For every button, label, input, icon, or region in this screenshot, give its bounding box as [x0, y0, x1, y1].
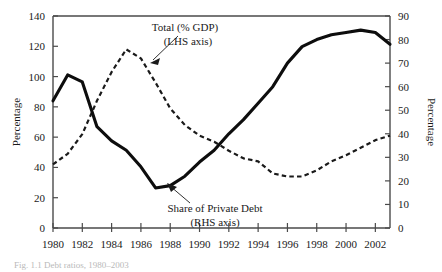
left-tick-label: 60: [34, 131, 46, 143]
annotation-total-gdp-line2: (LHS axis): [164, 35, 213, 48]
figure-container: 020406080100120140 0102030405060708090 1…: [0, 0, 442, 272]
x-tick-label: 1994: [247, 238, 270, 250]
axes-frame: [53, 16, 390, 228]
x-tick-label: 1992: [218, 238, 240, 250]
right-tick-label: 70: [398, 57, 410, 69]
left-tick-label: 140: [29, 10, 46, 22]
left-tick-label: 20: [34, 192, 46, 204]
series-line-2: [53, 30, 390, 188]
left-tick-label: 40: [34, 161, 46, 173]
x-tick-label: 1986: [130, 238, 153, 250]
left-tick-label: 80: [34, 101, 46, 113]
annotation-private-debt-line2: (RHS axis): [190, 216, 240, 229]
annotation-private-debt-line1: Share of Private Debt: [168, 202, 263, 214]
x-tick-label: 1998: [306, 238, 329, 250]
left-axis-title: Percentage: [10, 98, 22, 146]
right-tick-label: 10: [398, 198, 410, 210]
annotation-total-gdp: Total (% GDP) (LHS axis): [150, 21, 219, 65]
x-tick-label: 1988: [159, 238, 182, 250]
right-axis-title: Percentage: [426, 98, 438, 146]
right-tick-label: 60: [398, 81, 410, 93]
left-tick-label: 0: [40, 222, 46, 234]
x-tick-label: 1984: [101, 238, 124, 250]
series-layer: [53, 30, 390, 188]
x-tick-label: 1990: [189, 238, 212, 250]
x-tick-label: 1980: [42, 238, 65, 250]
right-tick-label: 0: [398, 222, 404, 234]
right-tick-label: 90: [398, 10, 410, 22]
right-tick-label: 50: [398, 104, 410, 116]
annotation-total-gdp-arrowhead: [150, 58, 160, 65]
right-tick-label: 80: [398, 34, 410, 46]
x-tick-label: 2000: [335, 238, 358, 250]
left-tick-label: 100: [29, 71, 46, 83]
right-tick-label: 30: [398, 151, 410, 163]
right-tick-label: 40: [398, 128, 410, 140]
x-tick-label: 2002: [364, 238, 386, 250]
left-tick-label: 120: [29, 40, 46, 52]
x-tick-label: 1996: [276, 238, 299, 250]
annotation-total-gdp-line1: Total (% GDP): [152, 21, 219, 34]
x-tick-label: 1982: [71, 238, 93, 250]
line-chart: 020406080100120140 0102030405060708090 1…: [0, 0, 442, 272]
right-tick-label: 20: [398, 175, 410, 187]
series-line-1: [53, 49, 390, 176]
annotation-private-debt: Share of Private Debt (RHS axis): [167, 183, 263, 229]
figure-caption: Fig. 1.1 Debt ratios, 1980–2003: [14, 260, 129, 270]
